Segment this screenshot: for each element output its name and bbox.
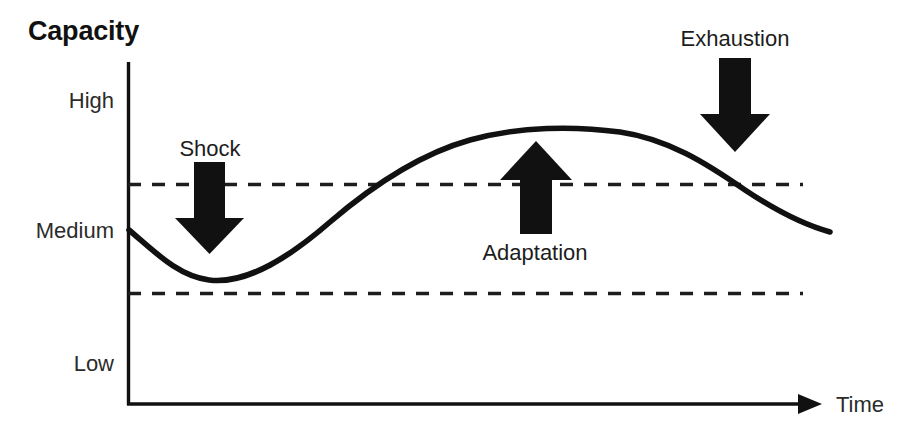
exhaustion-arrow-icon [700, 58, 770, 152]
y-tick-label-low: Low [8, 351, 114, 377]
x-axis-arrowhead-icon [798, 394, 822, 414]
annotation-label-shock: Shock [140, 136, 280, 162]
y-tick-label-high: High [8, 88, 114, 114]
annotation-label-exhaustion: Exhaustion [640, 26, 830, 52]
capacity-resilience-figure: Capacity High Medium Low T [0, 0, 903, 437]
x-axis-title: Time [836, 392, 884, 418]
y-tick-label-medium: Medium [8, 218, 114, 244]
chart-canvas [0, 0, 903, 437]
shock-arrow-icon [175, 162, 244, 254]
adaptation-arrow-icon [500, 141, 572, 234]
annotation-label-adaptation: Adaptation [440, 240, 630, 266]
